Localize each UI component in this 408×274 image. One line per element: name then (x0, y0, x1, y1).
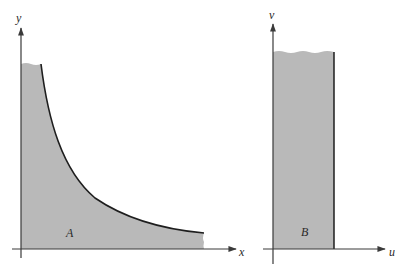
y-axis-label: y (15, 11, 22, 25)
region-a-label: A (65, 226, 74, 240)
mapping-diagram: y x A v u B (0, 0, 408, 274)
left-panel: y x A (12, 11, 245, 259)
region-b (273, 51, 334, 249)
region-a (21, 63, 204, 249)
x-axis-label: x (238, 245, 245, 259)
right-panel: v u B (263, 8, 395, 264)
u-axis-label: u (389, 245, 395, 259)
v-axis-label: v (269, 8, 275, 22)
region-b-label: B (301, 225, 309, 239)
